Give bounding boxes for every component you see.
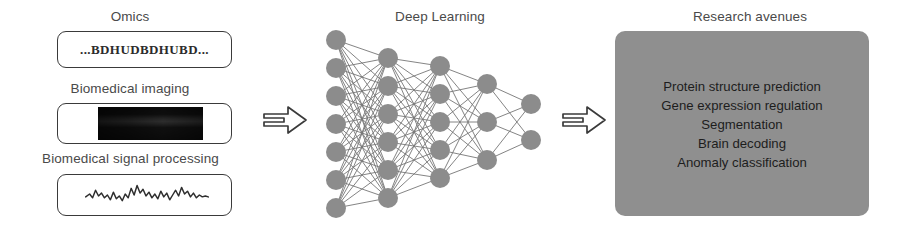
omics-box: ...BDHUDBDHUBD... (57, 31, 232, 68)
list-item: Anomaly classification (615, 152, 869, 171)
list-item: Segmentation (615, 114, 869, 133)
arrow-model-to-outputs (561, 103, 607, 137)
biomedical-signal-processing-label: Biomedical signal processing (8, 152, 253, 166)
deep-learning-label: Deep Learning (335, 10, 545, 24)
ultrasound-image-icon (98, 107, 204, 140)
list-item: Protein structure prediction (615, 76, 869, 95)
dna-sequence-icon: ...BDHUDBDHUBD... (58, 42, 231, 58)
neural-network-diagram (320, 28, 550, 223)
omics-label: Omics (30, 10, 230, 24)
biomedical-imaging-label: Biomedical imaging (30, 82, 230, 96)
arrow-inputs-to-model (262, 103, 308, 137)
list-item: Gene expression regulation (615, 95, 869, 114)
eeg-waveform-icon (58, 175, 231, 215)
list-item: Brain decoding (615, 133, 869, 152)
figure-root: Omics ...BDHUDBDHUBD... Biomedical imagi… (0, 0, 905, 231)
biomedical-imaging-box (57, 103, 232, 144)
research-avenues-list: Protein structure prediction Gene expres… (615, 76, 869, 171)
biomedical-signal-box (57, 174, 232, 216)
research-avenues-label: Research avenues (630, 10, 870, 24)
research-avenues-panel: Protein structure prediction Gene expres… (615, 31, 869, 216)
